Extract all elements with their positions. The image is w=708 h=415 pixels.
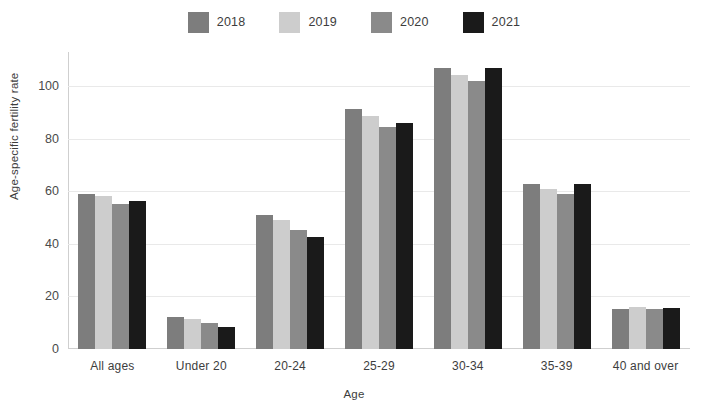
bar-2018[interactable] xyxy=(256,215,273,349)
y-axis-tick-label: 0 xyxy=(52,343,59,356)
bar-2019[interactable] xyxy=(540,189,557,349)
y-axis-tick-label: 40 xyxy=(45,238,59,251)
bar-group: Under 20 xyxy=(157,52,246,349)
y-axis-tick-label: 80 xyxy=(45,132,59,145)
y-axis-tick-label: 60 xyxy=(45,185,59,198)
bar-2019[interactable] xyxy=(273,220,290,349)
bar-2019[interactable] xyxy=(184,319,201,349)
bar-2020[interactable] xyxy=(379,127,396,349)
legend-label: 2018 xyxy=(217,16,246,29)
bar-2018[interactable] xyxy=(434,68,451,349)
bar-2021[interactable] xyxy=(485,68,502,349)
x-axis-title: Age xyxy=(0,388,708,400)
bar-2020[interactable] xyxy=(201,323,218,349)
x-axis-tick-label: 20-24 xyxy=(274,359,306,373)
legend-label: 2020 xyxy=(400,16,429,29)
bar-group: 30-34 xyxy=(423,52,512,349)
legend-item-2018[interactable]: 2018 xyxy=(188,12,246,33)
legend-label: 2019 xyxy=(308,16,337,29)
bar-2021[interactable] xyxy=(396,123,413,349)
x-axis-tick-label: All ages xyxy=(90,359,134,373)
legend-item-2019[interactable]: 2019 xyxy=(279,12,337,33)
bar-group: All ages xyxy=(68,52,157,349)
bar-2020[interactable] xyxy=(112,204,129,349)
bar-group: 40 and over xyxy=(601,52,690,349)
bar-group: 35-39 xyxy=(512,52,601,349)
y-axis-title: Age-specific fertility rate xyxy=(8,73,20,200)
x-axis-tick-label: 35-39 xyxy=(541,359,573,373)
x-axis-tick-label: Under 20 xyxy=(176,359,227,373)
x-axis-tick-label: 25-29 xyxy=(363,359,395,373)
bar-2020[interactable] xyxy=(646,309,663,349)
bar-2018[interactable] xyxy=(612,309,629,349)
bar-2020[interactable] xyxy=(557,194,574,349)
legend-item-2020[interactable]: 2020 xyxy=(371,12,429,33)
bar-groups: All agesUnder 2020-2425-2930-3435-3940 a… xyxy=(68,52,690,349)
legend-swatch-2021 xyxy=(463,12,484,33)
bar-2021[interactable] xyxy=(307,237,324,349)
bar-2019[interactable] xyxy=(95,196,112,349)
bar-2020[interactable] xyxy=(468,81,485,349)
bar-group: 20-24 xyxy=(246,52,335,349)
legend-swatch-2019 xyxy=(279,12,300,33)
bar-2019[interactable] xyxy=(362,116,379,349)
legend-swatch-2018 xyxy=(188,12,209,33)
bar-2019[interactable] xyxy=(451,75,468,349)
bar-2020[interactable] xyxy=(290,230,307,349)
bar-2019[interactable] xyxy=(629,307,646,349)
bar-2018[interactable] xyxy=(345,109,362,349)
bar-2021[interactable] xyxy=(218,327,235,349)
bar-2018[interactable] xyxy=(523,184,540,349)
bar-2021[interactable] xyxy=(129,201,146,349)
y-axis-tick-label: 100 xyxy=(38,80,59,93)
bar-2021[interactable] xyxy=(663,308,680,349)
plot-area: 020406080100 All agesUnder 2020-2425-293… xyxy=(68,52,690,349)
bar-2018[interactable] xyxy=(167,317,184,349)
legend-swatch-2020 xyxy=(371,12,392,33)
legend-label: 2021 xyxy=(492,16,521,29)
bar-group: 25-29 xyxy=(335,52,424,349)
chart-legend: 2018201920202021 xyxy=(0,12,708,33)
x-axis-tick-label: 40 and over xyxy=(613,359,679,373)
legend-item-2021[interactable]: 2021 xyxy=(463,12,521,33)
bar-2021[interactable] xyxy=(574,184,591,349)
y-axis-tick-label: 20 xyxy=(45,290,59,303)
x-axis-tick-label: 30-34 xyxy=(452,359,484,373)
bar-2018[interactable] xyxy=(78,194,95,349)
bar-chart: 2018201920202021 Age-specific fertility … xyxy=(0,0,708,415)
